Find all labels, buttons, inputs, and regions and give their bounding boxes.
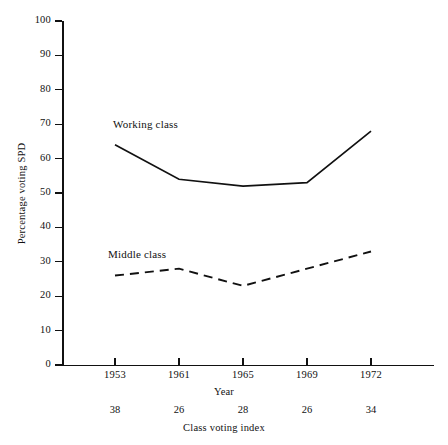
class-voting-index-title: Class voting index [0,422,448,433]
series-line-working-class [115,131,371,186]
series-annotation-working-class: Working class [113,118,178,130]
x-axis-title: Year [0,386,448,397]
chart-figure: 0102030405060708090100 19531961196519691… [0,0,448,445]
y-axis-title: Percentage voting SPD [16,99,27,289]
series-annotation-middle-class: Middle class [108,248,166,260]
plot-area [0,0,448,445]
